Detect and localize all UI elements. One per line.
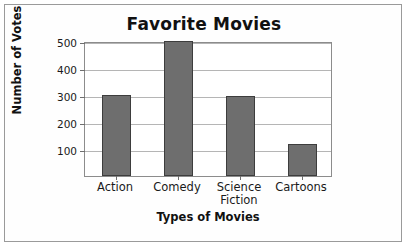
- y-axis-title: Number of Votes: [10, 0, 24, 124]
- y-tick-label: 400: [57, 64, 77, 76]
- y-tick-label: 500: [57, 37, 77, 49]
- bar: [288, 144, 317, 176]
- gridline: [85, 43, 331, 44]
- chart-figure-frame: Favorite Movies Number of Votes 10020030…: [4, 4, 402, 242]
- x-tick-label: Cartoons: [270, 181, 332, 194]
- y-tick-mark: [80, 124, 85, 125]
- y-tick-mark: [80, 43, 85, 44]
- plot-area: 100200300400500: [84, 42, 332, 177]
- y-tick-mark: [80, 97, 85, 98]
- y-tick-label: 200: [57, 118, 77, 130]
- x-tick-label: Comedy: [146, 181, 208, 194]
- gridline: [85, 70, 331, 71]
- x-tick-label: Science Fiction: [208, 181, 270, 207]
- y-tick-label: 100: [57, 145, 77, 157]
- bar: [102, 95, 131, 176]
- y-tick-mark: [80, 151, 85, 152]
- x-tick-label: Action: [84, 181, 146, 194]
- x-axis-title: Types of Movies: [84, 210, 332, 224]
- y-tick-label: 300: [57, 91, 77, 103]
- chart-title: Favorite Movies: [5, 14, 403, 34]
- y-tick-mark: [80, 70, 85, 71]
- bar: [164, 41, 193, 176]
- bar: [226, 96, 255, 176]
